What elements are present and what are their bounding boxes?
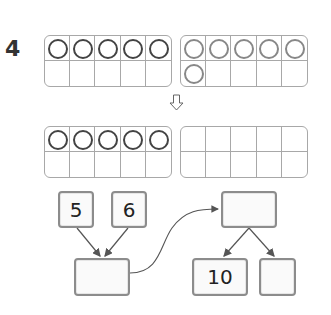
- bond-line-10: [224, 228, 249, 256]
- bond-box-left-total[interactable]: [74, 258, 130, 296]
- bond-box-part-10[interactable]: 10: [192, 258, 248, 296]
- bond-box-part-blank[interactable]: [259, 258, 296, 296]
- bond-box-part-5[interactable]: 5: [58, 191, 94, 228]
- bond-box-part-6[interactable]: 6: [111, 191, 147, 228]
- bond-line-5: [77, 228, 100, 256]
- bond-line-6: [105, 228, 128, 256]
- down-arrow-icon: [170, 95, 183, 110]
- bond-box-right-total[interactable]: [221, 191, 277, 228]
- bond-line-blank: [249, 228, 274, 256]
